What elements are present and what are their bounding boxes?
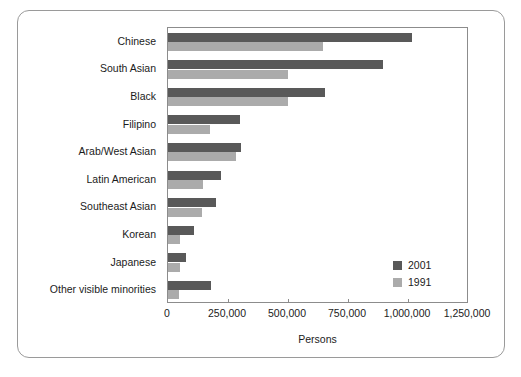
bar-1991-filipino bbox=[168, 125, 210, 134]
chart-legend: 20011991 bbox=[393, 258, 431, 292]
bar-group bbox=[168, 111, 469, 138]
x-tick-label: 750,000 bbox=[328, 308, 366, 319]
bar-1991-chinese bbox=[168, 42, 323, 51]
bar-2001-chinese bbox=[168, 33, 412, 42]
legend-label-1991: 1991 bbox=[408, 277, 431, 288]
category-label-filipino: Filipino bbox=[123, 119, 156, 130]
x-tick-label: 500,000 bbox=[268, 308, 306, 319]
legend-entry-2001: 2001 bbox=[393, 258, 431, 272]
bar-2001-filipino bbox=[168, 115, 240, 124]
legend-swatch-1991 bbox=[393, 278, 402, 287]
bar-group bbox=[168, 83, 469, 110]
bar-2001-southeast-asian bbox=[168, 198, 216, 207]
x-tick-mark bbox=[408, 299, 409, 303]
x-axis-tick-labels: 0250,000500,000750,0001,000,0001,250,000 bbox=[0, 0, 521, 20]
bar-group bbox=[168, 56, 469, 83]
category-label-black: Black bbox=[130, 91, 156, 102]
bar-group bbox=[168, 194, 469, 221]
x-tick-mark bbox=[288, 299, 289, 303]
category-label-south-asian: South Asian bbox=[100, 63, 156, 74]
bar-2001-south-asian bbox=[168, 60, 383, 69]
bar-2001-black bbox=[168, 88, 325, 97]
bar-1991-korean bbox=[168, 235, 180, 244]
category-label-arab-west-asian: Arab/West Asian bbox=[79, 146, 156, 157]
x-tick-label: 1,000,000 bbox=[384, 308, 431, 319]
bar-2001-korean bbox=[168, 226, 194, 235]
bar-1991-latin-american bbox=[168, 180, 203, 189]
legend-swatch-2001 bbox=[393, 261, 402, 270]
bar-2001-other-visible-minorities bbox=[168, 281, 211, 290]
bar-1991-other-visible-minorities bbox=[168, 290, 179, 299]
bar-1991-japanese bbox=[168, 263, 180, 272]
x-axis-title: Persons bbox=[167, 334, 468, 345]
bar-2001-japanese bbox=[168, 253, 186, 262]
x-tick-mark bbox=[348, 299, 349, 303]
bar-group bbox=[168, 138, 469, 165]
bar-group bbox=[168, 221, 469, 248]
bar-group bbox=[168, 28, 469, 55]
bar-group bbox=[168, 166, 469, 193]
bar-1991-south-asian bbox=[168, 70, 288, 79]
legend-label-2001: 2001 bbox=[408, 260, 431, 271]
category-label-chinese: Chinese bbox=[117, 36, 156, 47]
x-tick-mark bbox=[228, 299, 229, 303]
bar-1991-black bbox=[168, 97, 288, 106]
category-label-latin-american: Latin American bbox=[87, 174, 156, 185]
category-label-korean: Korean bbox=[122, 229, 156, 240]
bar-2001-arab-west-asian bbox=[168, 143, 241, 152]
chart-screenshot: ChineseSouth AsianBlackFilipinoArab/West… bbox=[0, 0, 521, 377]
bar-2001-latin-american bbox=[168, 171, 221, 180]
bar-1991-arab-west-asian bbox=[168, 152, 236, 161]
category-label-japanese: Japanese bbox=[110, 257, 156, 268]
x-tick-label: 250,000 bbox=[208, 308, 246, 319]
x-tick-label: 0 bbox=[164, 308, 170, 319]
bar-1991-southeast-asian bbox=[168, 208, 202, 217]
category-label-other-visible-minorities: Other visible minorities bbox=[50, 284, 156, 295]
category-axis-labels: ChineseSouth AsianBlackFilipinoArab/West… bbox=[17, 27, 163, 303]
category-label-southeast-asian: Southeast Asian bbox=[80, 201, 156, 212]
x-tick-label: 1,250,000 bbox=[444, 308, 491, 319]
legend-entry-1991: 1991 bbox=[393, 275, 431, 289]
